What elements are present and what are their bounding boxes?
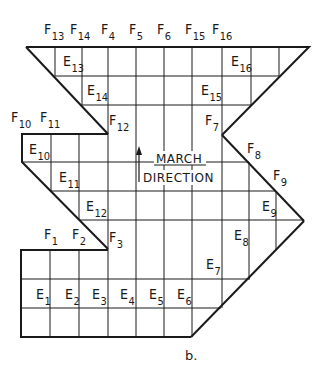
march-direction-label-line2: DIRECTION	[143, 171, 214, 185]
f-label-f13: F13	[44, 21, 64, 43]
e-label-e3: E3	[92, 286, 107, 308]
f-label-f3: F3	[109, 229, 123, 251]
f-label-f4: F4	[101, 21, 115, 43]
e-label-e6: E6	[177, 286, 192, 308]
f-label-f9: F9	[273, 167, 287, 189]
e-label-e15: E15	[201, 82, 222, 104]
formation-grid-diagram: MARCH DIRECTION F13F14F4F5F6F15F16F10F11…	[0, 0, 328, 377]
march-direction-label-line1: MARCH	[156, 152, 202, 166]
f-label-f5: F5	[129, 21, 143, 43]
e-label-e4: E4	[120, 286, 135, 308]
e-label-e8: E8	[234, 227, 249, 249]
e-label-e12: E12	[86, 198, 107, 220]
f-label-f1: F1	[44, 226, 58, 248]
f-label-f2: F2	[72, 226, 86, 248]
f-label-f7: F7	[205, 112, 219, 134]
f-label-f11: F11	[40, 109, 60, 131]
position-labels: F13F14F4F5F6F15F16F10F11F12F7F8F9F1F2F3E…	[11, 21, 287, 308]
e-label-e5: E5	[149, 286, 164, 308]
e-label-e11: E11	[59, 169, 80, 191]
f-label-f12: F12	[109, 112, 129, 134]
e-label-e1: E1	[36, 286, 51, 308]
f-label-f8: F8	[247, 140, 261, 162]
e-label-e9: E9	[262, 198, 277, 220]
march-direction-arrow-icon	[136, 146, 142, 182]
e-label-e13: E13	[63, 53, 84, 75]
f-label-f15: F15	[185, 21, 205, 43]
f-label-f16: F16	[212, 21, 232, 43]
f-label-f14: F14	[70, 21, 90, 43]
e-label-e14: E14	[87, 82, 108, 104]
f-label-f10: F10	[11, 109, 31, 131]
e-label-e2: E2	[65, 286, 80, 308]
e-label-e7: E7	[206, 256, 221, 278]
grid-lines	[21, 47, 304, 337]
f-label-f6: F6	[157, 21, 171, 43]
e-label-e10: E10	[29, 141, 50, 163]
figure-caption: b.	[185, 348, 197, 363]
e-label-e16: E16	[231, 53, 252, 75]
